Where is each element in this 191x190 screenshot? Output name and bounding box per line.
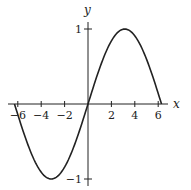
x-axis-label: x	[173, 97, 180, 111]
x-tick-label: 6	[155, 109, 162, 122]
y-tick-label: −1	[66, 173, 82, 186]
x-tick-label: 4	[131, 109, 138, 122]
sine-chart: x y −6−4−2246 1−1	[0, 0, 191, 190]
y-axis-label: y	[83, 3, 91, 17]
x-tick-label: −2	[56, 109, 72, 122]
y-tick-label: 1	[75, 23, 82, 36]
x-tick-label: −4	[33, 109, 49, 122]
x-tick-label: 2	[108, 109, 115, 122]
